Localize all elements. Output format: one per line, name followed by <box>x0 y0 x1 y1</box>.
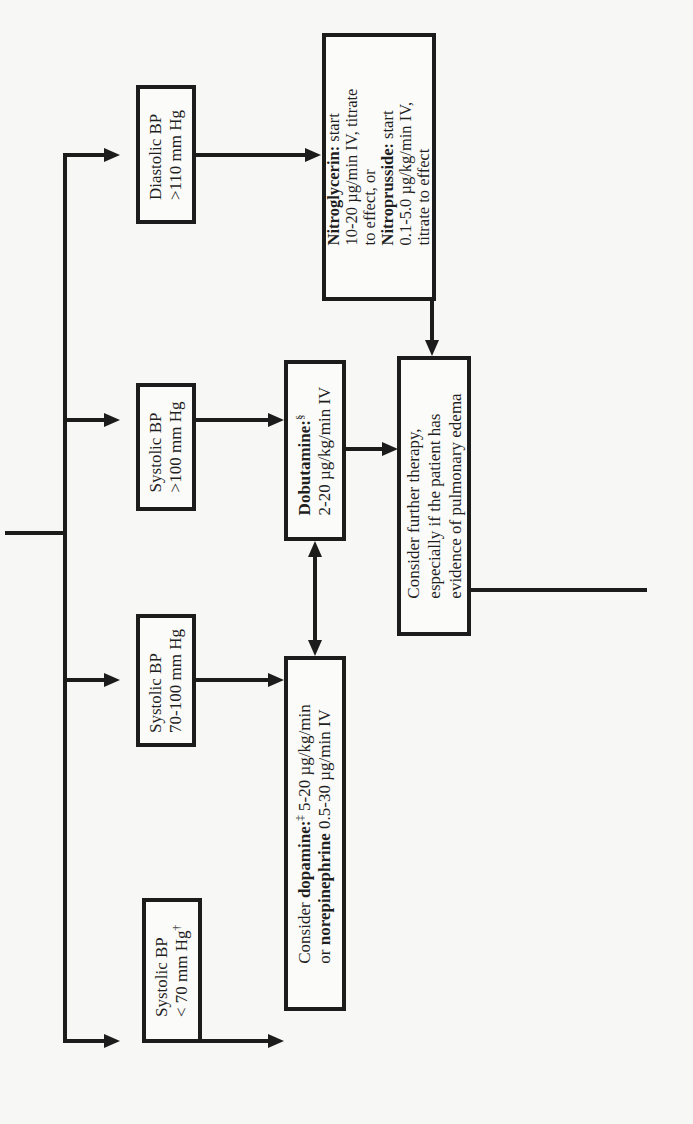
arrow-icon <box>268 1034 284 1048</box>
footnote-mark: † <box>170 924 182 930</box>
arrow-icon <box>104 1034 120 1048</box>
footnote-mark: ‡ <box>293 815 305 821</box>
branch-line-systolic-lt70 <box>63 1039 105 1043</box>
condition-box-diastolic: Diastolic BP >110 mm Hg <box>136 85 196 224</box>
condition-line2: >110 mm Hg <box>166 109 186 199</box>
drug-name-dobutamine: Dobutamine: <box>295 419 314 514</box>
condition-line1: Systolic BP <box>146 402 166 493</box>
condition-line2: 70-100 mm Hg <box>166 629 186 733</box>
drug-name-nitroprusside: Nitroprusside: <box>378 143 397 245</box>
trunk-line <box>63 153 67 1043</box>
connector-70-100-to-dopamine <box>196 678 270 682</box>
drug-name-nitroglycerin: Nitroglycerin: <box>324 146 343 246</box>
condition-box-systolic-gt100: Systolic BP >100 mm Hg <box>136 383 196 511</box>
connector-dobutamine-dopamine <box>313 552 317 642</box>
arrow-icon <box>382 442 398 456</box>
nitroprusside-dose: 0.1-5.0 µg/kg/min IV, <box>397 89 415 246</box>
connector-gt100-to-dobutamine <box>196 418 270 422</box>
further-therapy-box: Consider further therapy, especially if … <box>397 356 471 636</box>
connector-nitro-to-further <box>430 301 434 343</box>
arrow-icon <box>305 148 321 162</box>
arrow-icon <box>268 673 284 687</box>
connector-diastolic-to-nitro <box>196 153 306 157</box>
condition-line1: Diastolic BP <box>146 109 166 199</box>
arrow-up-icon <box>308 541 322 557</box>
outgoing-connector <box>471 588 647 592</box>
connector-lt70-to-dopamine <box>202 1039 270 1043</box>
condition-line1: Systolic BP <box>152 924 172 1016</box>
condition-line1: Systolic BP <box>146 629 166 733</box>
arrow-down-icon <box>425 340 439 356</box>
drug-name-norepinephrine: norepinephrine <box>315 833 334 945</box>
branch-line-systolic-gt100 <box>63 418 105 422</box>
condition-box-systolic-lt70: Systolic BP < 70 mm Hg† <box>142 898 202 1043</box>
branch-line-diastolic <box>63 153 105 157</box>
dopamine-dose: 5-20 µg/kg/min <box>295 704 314 815</box>
footnote-mark: § <box>293 414 305 420</box>
condition-line2: < 70 mm Hg <box>172 930 191 1017</box>
arrow-icon <box>104 673 120 687</box>
norepinephrine-dose: 0.5-30 µg/min IV <box>315 709 334 833</box>
arrow-icon <box>268 413 284 427</box>
nitro-dose: 10-20 µg/min IV, titrate <box>343 89 361 246</box>
treatment-box-dobutamine: Dobutamine:§ 2-20 µg/kg/min IV <box>284 360 346 541</box>
connector-dobutamine-to-further <box>346 447 384 451</box>
arrow-icon <box>104 413 120 427</box>
condition-box-systolic-70-100: Systolic BP 70-100 mm Hg <box>136 614 196 747</box>
arrow-down-icon <box>308 640 322 656</box>
treatment-box-dopamine: Consider dopamine:‡ 5-20 µg/kg/min or no… <box>284 656 346 1011</box>
condition-line2: >100 mm Hg <box>166 402 186 493</box>
arrow-icon <box>104 148 120 162</box>
incoming-connector <box>5 531 67 535</box>
dobutamine-dose: 2-20 µg/kg/min IV <box>315 386 335 515</box>
drug-name-dopamine: dopamine: <box>295 820 314 897</box>
treatment-box-nitro: Nitroglycerin: start 10-20 µg/min IV, ti… <box>322 33 436 301</box>
branch-line-systolic-70-100 <box>63 678 105 682</box>
